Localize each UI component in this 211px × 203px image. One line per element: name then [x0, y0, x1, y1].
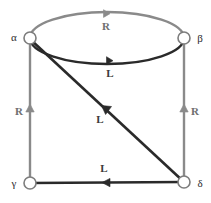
- node-gamma[interactable]: γ: [11, 177, 36, 189]
- node-alpha-label: α: [11, 31, 17, 43]
- node-delta-circle[interactable]: [178, 176, 190, 188]
- node-alpha[interactable]: α: [11, 31, 36, 44]
- edge-left-arrowhead-icon: [26, 104, 34, 112]
- node-delta-label: δ: [197, 177, 202, 189]
- edge-arc-top: R: [30, 10, 184, 38]
- edge-label-bottom: L: [100, 162, 107, 174]
- edge-label-right: R: [191, 105, 200, 117]
- edge-right-vertical: R: [180, 38, 200, 182]
- node-gamma-circle[interactable]: [24, 177, 36, 189]
- edge-bottom-horizontal: L: [30, 162, 184, 187]
- edge-label-left: R: [15, 105, 24, 117]
- node-gamma-label: γ: [11, 177, 17, 189]
- node-delta[interactable]: δ: [178, 176, 203, 189]
- edge-bottom-arrowhead-icon: [102, 178, 110, 186]
- node-beta-label: β: [197, 32, 203, 44]
- node-beta-circle[interactable]: [178, 32, 190, 44]
- edge-left-vertical: R: [15, 38, 34, 183]
- edge-arc-inner: L: [30, 38, 184, 79]
- graph-canvas: R L R R L L: [0, 0, 211, 203]
- graph-diagram: R L R R L L: [0, 0, 211, 203]
- edge-right-arrowhead-icon: [180, 104, 188, 112]
- node-beta[interactable]: β: [178, 32, 203, 44]
- edge-label-arc-top: R: [102, 20, 111, 32]
- node-alpha-circle[interactable]: [24, 32, 36, 44]
- edge-label-diagonal: L: [96, 113, 103, 125]
- edge-label-arc-inner: L: [106, 67, 113, 79]
